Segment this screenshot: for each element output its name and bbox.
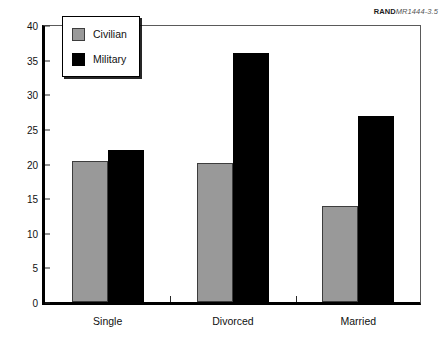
- y-axis-tick-label: 0: [32, 298, 38, 309]
- civilian-swatch-icon: [72, 28, 85, 41]
- y-axis-tick-label: 40: [27, 21, 38, 32]
- chart-legend: Civilian Military: [62, 16, 140, 77]
- y-axis-tick-label: 35: [27, 55, 38, 66]
- y-axis-tick-mark: [45, 233, 50, 234]
- y-axis-tick-label: 25: [27, 124, 38, 135]
- y-axis-tick-mark: [45, 60, 50, 61]
- source-credit-document: MR1444-3.5: [396, 7, 438, 16]
- source-credit: RANDMR1444-3.5: [374, 7, 438, 16]
- legend-label-civilian: Civilian: [93, 28, 127, 40]
- x-axis-label-single: Single: [93, 315, 122, 327]
- x-axis-label-married: Married: [341, 315, 377, 327]
- bar-single-military: [108, 150, 144, 302]
- x-axis-label-divorced: Divorced: [212, 315, 253, 327]
- y-axis-tick-label: 30: [27, 90, 38, 101]
- legend-item-military: Military: [72, 50, 127, 68]
- chart-figure: RANDMR1444-3.5 0510152025303540SingleDiv…: [0, 0, 444, 342]
- y-axis-tick-mark: [45, 303, 50, 304]
- bar-divorced-military: [233, 53, 269, 302]
- y-axis-tick-mark: [45, 95, 50, 96]
- y-axis-tick-label: 20: [27, 159, 38, 170]
- bar-divorced-civilian: [197, 163, 233, 302]
- y-axis-tick-mark: [45, 164, 50, 165]
- y-axis-tick-label: 10: [27, 228, 38, 239]
- bar-married-civilian: [322, 206, 358, 302]
- y-axis-tick-mark: [45, 26, 50, 27]
- military-swatch-icon: [72, 53, 85, 66]
- source-credit-brand: RAND: [374, 7, 396, 16]
- y-axis-tick-mark: [45, 129, 50, 130]
- y-axis-tick-label: 5: [32, 263, 38, 274]
- legend-item-civilian: Civilian: [72, 25, 127, 43]
- y-axis-tick-mark: [45, 268, 50, 269]
- y-axis-tick-mark: [45, 199, 50, 200]
- x-axis-tick-mark: [296, 296, 297, 302]
- legend-label-military: Military: [93, 53, 126, 65]
- bar-single-civilian: [72, 161, 108, 302]
- bar-married-military: [358, 116, 394, 302]
- y-axis-tick-label: 15: [27, 194, 38, 205]
- x-axis-tick-mark: [170, 296, 171, 302]
